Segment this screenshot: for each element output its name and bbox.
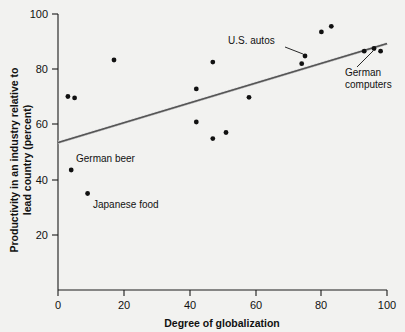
annotation-label-german-beer: German beer [76, 153, 136, 164]
y-tick-label-80: 80 [36, 63, 48, 75]
y-axis-title-line1: Productivity in an industry relative to [8, 68, 20, 253]
x-tick-label-80: 80 [315, 299, 327, 311]
y-tick-label-60: 60 [36, 118, 48, 130]
data-point [362, 49, 367, 54]
data-point [378, 49, 383, 54]
annotation-label-japanese-food: Japanese food [93, 199, 159, 210]
data-points-group [66, 24, 384, 196]
data-point [69, 168, 74, 173]
data-point [224, 130, 229, 135]
data-point [72, 96, 77, 101]
y-tick-label-100: 100 [30, 8, 48, 20]
scatter-chart-figure: 100 80 60 40 20 0 20 40 60 80 100 Degree… [0, 0, 405, 332]
data-point [66, 94, 71, 99]
data-point [303, 54, 308, 59]
annotation-label-us-autos: U.S. autos [228, 35, 275, 46]
x-tick-label-100: 100 [378, 299, 396, 311]
y-tick-label-40: 40 [36, 174, 48, 186]
x-tick-label-60: 60 [250, 299, 262, 311]
data-point [194, 87, 199, 92]
y-tick-label-20: 20 [36, 229, 48, 241]
y-axis-title-line2: lead country (percent) [21, 105, 33, 215]
x-axis-title: Degree of globalization [164, 317, 280, 329]
plot-area: 100 80 60 40 20 0 20 40 60 80 100 Degree… [0, 0, 405, 332]
data-point [210, 136, 215, 141]
data-point [112, 58, 117, 63]
data-point [299, 61, 304, 66]
data-point [85, 191, 90, 196]
annotation-label-german-computers-line1: German [345, 67, 381, 78]
data-point [319, 30, 324, 35]
leader-line-us-autos [285, 47, 303, 54]
annotation-label-german-computers-line2: computers [345, 79, 392, 90]
trend-line [58, 42, 387, 144]
data-point [329, 24, 334, 29]
x-tick-label-0: 0 [55, 299, 61, 311]
data-point [210, 60, 215, 65]
x-tick-label-40: 40 [184, 299, 196, 311]
x-tick-label-20: 20 [118, 299, 130, 311]
data-point [194, 120, 199, 125]
data-point [247, 95, 252, 100]
data-point [372, 46, 377, 51]
